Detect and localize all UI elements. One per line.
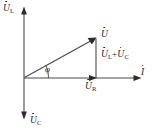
label-u-l-subscript: L xyxy=(10,7,14,14)
u-phasor-arrowhead xyxy=(88,38,97,45)
label-u-l-symbol: U xyxy=(3,4,10,14)
label-u-c-symbol: U xyxy=(30,116,37,126)
phasor-diagram-canvas xyxy=(0,0,152,132)
label-u-c-subscript: C xyxy=(37,119,41,126)
vertical-axis-up-arrowhead xyxy=(21,7,27,15)
label-u-l: UL xyxy=(3,4,14,14)
label-u: U xyxy=(101,30,108,40)
label-i: I xyxy=(141,68,144,78)
label-u-symbol: U xyxy=(101,30,108,40)
label-u-r-subscript: R xyxy=(92,85,96,92)
label-i-symbol: I xyxy=(141,68,144,78)
vertical-axis-down-arrowhead xyxy=(21,112,27,120)
label-u-r-symbol: U xyxy=(85,82,92,92)
label-ulc-second-subscript: C xyxy=(124,53,128,60)
phasor-diagram: UL UC U UR UL+UC I φ xyxy=(0,0,152,132)
label-ulc-first-symbol: U xyxy=(101,50,108,60)
label-u-c: UC xyxy=(30,116,41,126)
u-phasor-line xyxy=(25,41,92,78)
label-ulc-first-subscript: L xyxy=(108,53,112,60)
label-phi: φ xyxy=(45,65,50,74)
label-u-l-plus-u-c: UL+UC xyxy=(101,50,129,60)
label-u-r: UR xyxy=(85,82,96,92)
